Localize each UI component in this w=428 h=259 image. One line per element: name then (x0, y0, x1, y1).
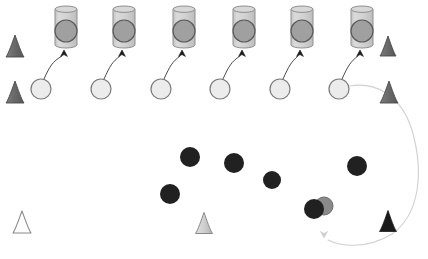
bottom-triangle-group (13, 211, 397, 234)
gray-triangle-left-bottom (6, 81, 24, 103)
return-path-curve (328, 85, 418, 245)
obstacle-6 (304, 199, 324, 219)
cylinder-marker-circle (55, 20, 77, 42)
goal-arrowhead (239, 50, 246, 56)
obstacle-4 (347, 156, 367, 176)
light-circle-group (31, 79, 349, 99)
curved-arrow-path (164, 56, 180, 79)
cylinder-marker-circle (291, 20, 313, 42)
cylinder-top-cap (233, 6, 255, 12)
gray-triangle-right-bottom (380, 81, 398, 103)
cylinder-top-cap (291, 6, 313, 12)
obstacle-2 (224, 153, 244, 173)
obstacle-5 (160, 184, 180, 204)
agent-1 (31, 79, 51, 99)
cylinder-3 (173, 6, 195, 48)
goal-arrowhead (119, 50, 126, 56)
return-path-arrowhead (320, 231, 327, 238)
curved-arrow-path (44, 56, 62, 79)
agent-2 (91, 79, 111, 99)
cylinder-top-cap (113, 6, 135, 12)
agent-3 (151, 79, 171, 99)
obstacle-3 (263, 171, 281, 189)
goal-arrowhead-group (61, 50, 364, 56)
cylinder-top-cap (173, 6, 195, 12)
agent-5 (270, 79, 290, 99)
return-path-group (320, 85, 418, 245)
cylinder-6 (351, 6, 373, 48)
cylinder-4 (233, 6, 255, 48)
cylinder-marker-circle (173, 20, 195, 42)
curved-arrow-path (104, 56, 120, 79)
open-triangle-bottom-left (13, 211, 31, 233)
cylinder-top-cap (351, 6, 373, 12)
cylinder-marker-circle (233, 20, 255, 42)
cylinder-1 (55, 6, 77, 48)
agent-4 (210, 79, 230, 99)
black-triangle-bottom-right (380, 211, 397, 232)
cylinder-top-cap (55, 6, 77, 12)
cylinder-2 (113, 6, 135, 48)
goal-arrowhead (61, 50, 68, 56)
goal-arrowhead (179, 50, 186, 56)
goal-arrowhead (357, 50, 364, 56)
black-circle-group (160, 147, 367, 219)
gray-triangle-left-top (6, 35, 24, 57)
cylinder-marker-circle (351, 20, 373, 42)
scene-canvas (0, 0, 428, 259)
obstacle-1 (180, 147, 200, 167)
scene-svg (0, 0, 428, 259)
goal-arrowhead (297, 50, 304, 56)
cylinder-5 (291, 6, 313, 48)
curved-arrow-path (342, 56, 358, 79)
light-triangle-bottom-mid (196, 213, 213, 234)
cylinder-group (55, 6, 373, 48)
curved-arrow-path (283, 56, 298, 79)
agent-6 (329, 79, 349, 99)
cylinder-marker-circle (113, 20, 135, 42)
gray-triangle-right-top (380, 36, 396, 56)
curved-arrow-group (44, 56, 358, 79)
curved-arrow-path (223, 56, 240, 79)
